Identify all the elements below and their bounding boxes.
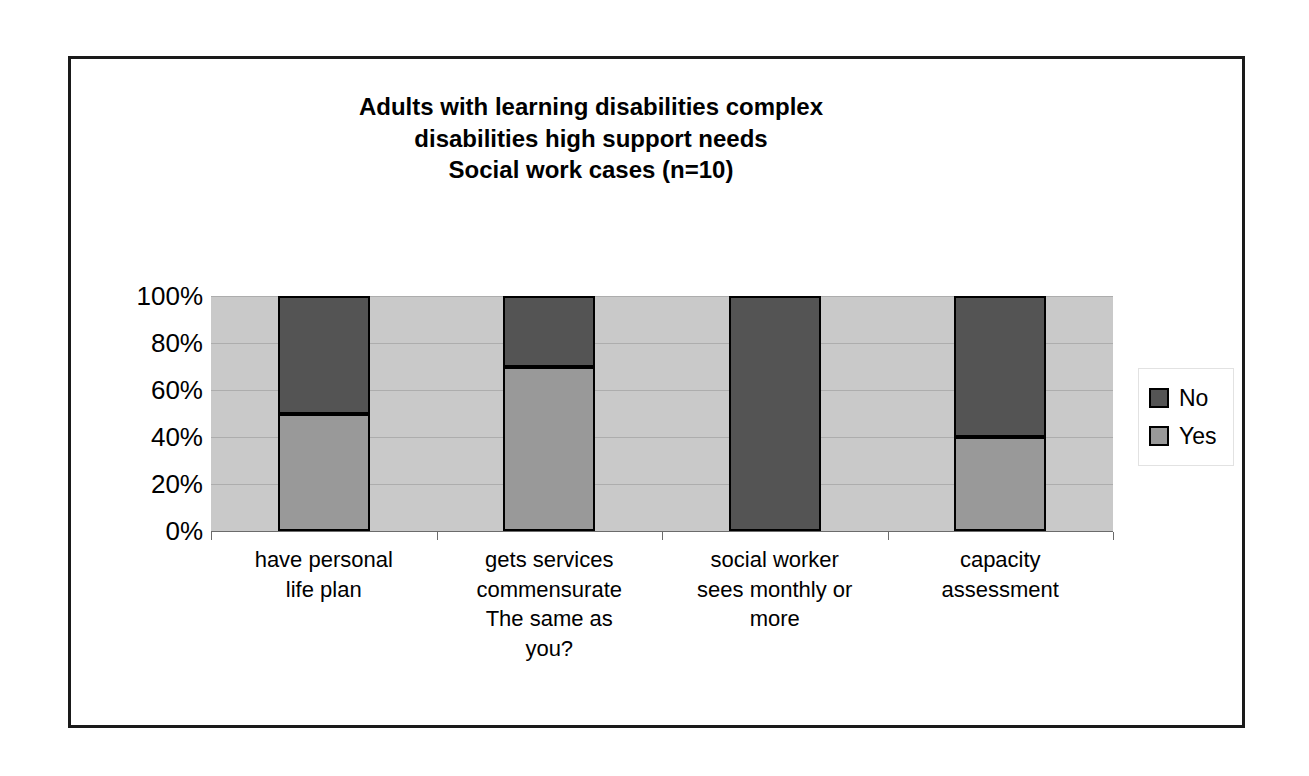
bar-stack[interactable]	[729, 296, 821, 531]
x-axis-tick	[1113, 532, 1114, 540]
y-tick-label: 60%	[75, 377, 203, 403]
chart-title: Adults with learning disabilities comple…	[71, 91, 1111, 186]
x-axis-label: social worker sees monthly or more	[662, 545, 888, 634]
y-axis: 100% 80% 60% 40% 20% 0%	[71, 296, 203, 531]
bar-group	[211, 296, 437, 531]
x-axis-tick	[888, 532, 889, 540]
bar-stack[interactable]	[278, 296, 370, 531]
y-tick-label: 40%	[75, 424, 203, 450]
legend-item-yes[interactable]: Yes	[1149, 417, 1225, 455]
bar-group	[888, 296, 1114, 531]
legend-label-yes: Yes	[1179, 425, 1217, 448]
plot-area	[211, 296, 1113, 531]
bar-segment-yes[interactable]	[503, 367, 595, 532]
y-tick-label: 20%	[75, 471, 203, 497]
y-tick-label: 80%	[75, 330, 203, 356]
x-axis-tick	[437, 532, 438, 540]
y-tick-label: 0%	[75, 518, 203, 544]
y-tick-label: 100%	[75, 283, 203, 309]
bar-stack[interactable]	[954, 296, 1046, 531]
bar-segment-no[interactable]	[278, 296, 370, 414]
x-axis-tick	[662, 532, 663, 540]
legend-swatch-no-icon	[1149, 388, 1169, 408]
bar-group	[662, 296, 888, 531]
bar-segment-no[interactable]	[503, 296, 595, 367]
bar-group	[437, 296, 663, 531]
x-axis-label: capacity assessment	[888, 545, 1114, 604]
legend-item-no[interactable]: No	[1149, 379, 1225, 417]
x-axis-category-labels: have personal life plangets services com…	[211, 545, 1113, 695]
legend: No Yes	[1138, 368, 1234, 466]
legend-label-no: No	[1179, 387, 1208, 410]
bar-segment-yes[interactable]	[954, 437, 1046, 531]
legend-swatch-yes-icon	[1149, 426, 1169, 446]
bar-segment-no[interactable]	[954, 296, 1046, 437]
bar-segment-yes[interactable]	[278, 414, 370, 532]
x-axis-tick	[211, 532, 212, 540]
x-axis-label: gets services commensurate The same as y…	[437, 545, 663, 664]
bar-segment-no[interactable]	[729, 296, 821, 531]
chart-frame: Adults with learning disabilities comple…	[68, 56, 1245, 728]
bar-stack[interactable]	[503, 296, 595, 531]
x-axis-label: have personal life plan	[211, 545, 437, 604]
